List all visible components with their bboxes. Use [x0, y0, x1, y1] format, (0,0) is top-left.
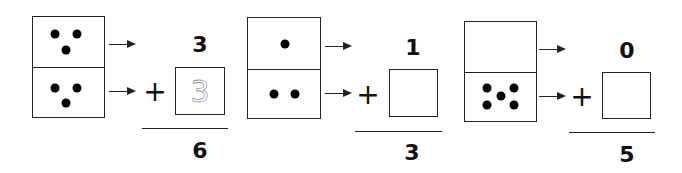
plus-sign: + — [356, 81, 379, 109]
domino-1-top-half — [33, 17, 104, 68]
domino-pip-icon — [510, 101, 519, 110]
domino-2-top-half — [248, 18, 320, 70]
right-arrow-icon — [539, 96, 564, 97]
domino-pip-icon — [51, 30, 60, 39]
domino-pip-icon — [483, 101, 492, 110]
right-arrow-icon — [325, 93, 350, 94]
domino-2 — [247, 17, 321, 119]
right-arrow-icon — [325, 46, 350, 47]
right-arrow-icon — [539, 49, 564, 50]
domino-1-bottom-half — [33, 67, 104, 117]
top-addend: 3 — [192, 34, 207, 56]
domino-3 — [464, 21, 537, 122]
sum-line — [142, 128, 228, 129]
right-arrow-icon — [109, 91, 134, 92]
sum-line — [569, 132, 655, 133]
domino-1 — [32, 16, 105, 118]
top-addend: 1 — [405, 37, 420, 59]
domino-pip-icon — [483, 84, 492, 93]
traced-answer: 3 — [190, 74, 209, 109]
domino-pip-icon — [497, 92, 506, 101]
domino-2-bottom-half — [248, 68, 320, 118]
plus-sign: + — [143, 78, 166, 106]
domino-pip-icon — [51, 84, 60, 93]
domino-pip-icon — [270, 90, 279, 99]
domino-pip-icon — [62, 46, 71, 55]
domino-pip-icon — [510, 84, 519, 93]
plus-sign: + — [570, 83, 593, 111]
top-addend: 0 — [619, 40, 634, 62]
domino-pip-icon — [62, 99, 71, 108]
domino-pip-icon — [281, 40, 290, 49]
domino-pip-icon — [291, 90, 300, 99]
answer-box-2[interactable] — [389, 69, 438, 117]
answer-box-3[interactable] — [602, 72, 651, 119]
sum-line — [355, 131, 442, 132]
sum-value: 6 — [192, 140, 207, 162]
sum-value: 3 — [404, 142, 419, 164]
answer-box-1[interactable]: 3 — [175, 67, 225, 115]
domino-pip-icon — [73, 84, 82, 93]
right-arrow-icon — [109, 44, 134, 45]
domino-3-bottom-half — [465, 71, 536, 121]
sum-value: 5 — [619, 144, 634, 166]
domino-pip-icon — [73, 30, 82, 39]
domino-3-top-half — [465, 22, 536, 73]
